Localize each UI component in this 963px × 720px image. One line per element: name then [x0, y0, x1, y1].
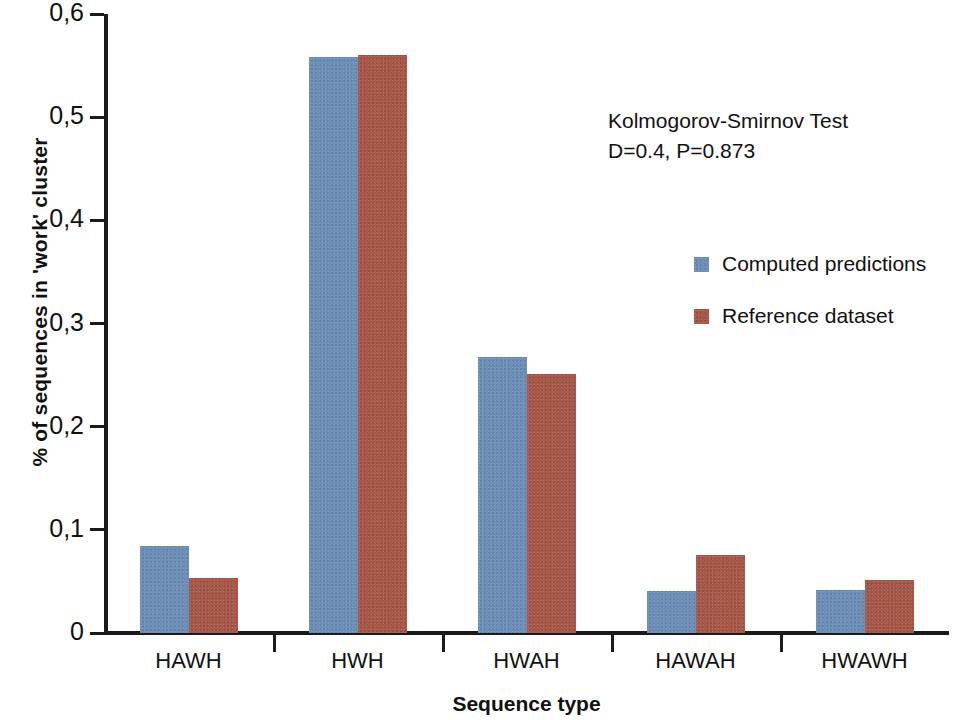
x-axis-tick-label: HAWAH	[611, 648, 780, 674]
y-axis-tick-label: 0,3	[0, 310, 84, 335]
bar-hwh-reference	[358, 55, 407, 633]
y-axis-tick	[90, 322, 104, 325]
bar-chart-figure: % of sequences in 'work' cluster 00,10,2…	[0, 0, 963, 720]
legend-item: Computed predictions	[694, 252, 926, 276]
y-axis-tick-label: 0,1	[0, 516, 84, 541]
y-axis-tick	[90, 13, 104, 16]
y-axis-tick-label: 0,2	[0, 413, 84, 438]
y-axis-tick	[90, 528, 104, 531]
bar-hawh-computed	[140, 546, 189, 633]
y-axis-tick	[90, 632, 104, 635]
legend-swatch-icon	[694, 309, 709, 324]
legend: Computed predictionsReference dataset	[694, 252, 926, 356]
bar-hwawh-reference	[865, 580, 914, 633]
legend-swatch-icon	[694, 257, 709, 272]
bar-hawh-reference	[189, 578, 238, 633]
bar-hawah-reference	[696, 555, 745, 633]
x-axis-tick-label: HWAWH	[780, 648, 949, 674]
bar-hwah-reference	[527, 374, 576, 633]
legend-label: Computed predictions	[722, 252, 926, 276]
y-axis-tick-label: 0,6	[0, 0, 84, 25]
y-axis-tick-label: 0,5	[0, 103, 84, 128]
bar-hwawh-computed	[816, 590, 865, 633]
y-axis-tick-label: 0	[0, 619, 84, 644]
x-axis-tick-label: HWH	[273, 648, 442, 674]
y-axis-tick	[90, 425, 104, 428]
x-axis-tick-label: HWAH	[442, 648, 611, 674]
bar-hwah-computed	[478, 357, 527, 633]
y-axis-title: % of sequences in 'work' cluster	[28, 92, 52, 512]
y-axis-tick-label: 0,4	[0, 206, 84, 231]
x-axis-title: Sequence type	[104, 692, 949, 716]
x-axis-tick-label: HAWH	[104, 648, 273, 674]
y-axis-tick	[90, 219, 104, 222]
y-axis-tick	[90, 116, 104, 119]
annotation-line-1: Kolmogorov-Smirnov Test	[608, 106, 848, 136]
statistical-annotation: Kolmogorov-Smirnov Test D=0.4, P=0.873	[608, 106, 848, 166]
annotation-line-2: D=0.4, P=0.873	[608, 136, 848, 166]
legend-label: Reference dataset	[722, 304, 894, 328]
legend-item: Reference dataset	[694, 304, 926, 328]
bar-hwh-computed	[309, 57, 358, 633]
bar-hawah-computed	[647, 591, 696, 633]
